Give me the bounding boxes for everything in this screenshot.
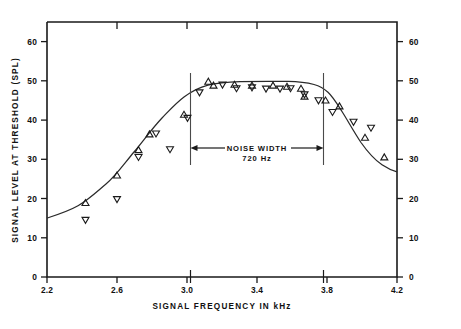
noise-width-label: NOISE WIDTH <box>227 144 288 153</box>
ytick-label-right-50: 50 <box>409 76 419 86</box>
plot-frame <box>47 22 397 277</box>
data-point <box>153 131 160 137</box>
y-axis-left-labels: 0 10 20 30 40 50 60 <box>27 37 37 282</box>
data-point <box>298 85 305 91</box>
ytick-label-left-0: 0 <box>32 272 37 282</box>
data-point <box>114 197 121 203</box>
y-axis-left-ticks <box>41 42 47 277</box>
figure-container: 0 10 20 30 40 50 60 0 10 20 30 40 50 60 <box>0 0 461 329</box>
y-axis-right-ticks <box>397 42 403 277</box>
ytick-label-left-40: 40 <box>27 115 37 125</box>
ytick-label-right-30: 30 <box>409 154 419 164</box>
data-point <box>196 90 203 96</box>
ytick-label-left-50: 50 <box>27 76 37 86</box>
data-point <box>233 86 240 92</box>
data-point <box>263 86 270 92</box>
data-point <box>270 82 277 88</box>
xtick-label-3.4: 3.4 <box>251 285 263 295</box>
y-axis-right-labels: 0 10 20 30 40 50 60 <box>409 37 419 282</box>
xtick-label-3.8: 3.8 <box>321 285 333 295</box>
noise-arrow-head-right <box>317 145 324 151</box>
ytick-label-right-40: 40 <box>409 115 419 125</box>
ytick-label-left-30: 30 <box>27 154 37 164</box>
data-point <box>368 125 375 131</box>
x-axis-labels: 2.2 2.6 3.0 3.4 3.8 4.2 <box>41 285 403 295</box>
noise-arrow-head-left <box>191 145 198 151</box>
data-point <box>82 217 89 223</box>
ytick-label-left-10: 10 <box>27 233 37 243</box>
fitted-response-curve <box>47 81 397 218</box>
data-point <box>381 154 388 160</box>
ytick-label-right-60: 60 <box>409 37 419 47</box>
series-triangle-up-markers <box>82 78 388 205</box>
data-point <box>329 110 336 116</box>
data-point <box>362 134 369 140</box>
data-point <box>205 78 212 84</box>
ytick-label-right-20: 20 <box>409 194 419 204</box>
chart-svg: 0 10 20 30 40 50 60 0 10 20 30 40 50 60 <box>0 0 461 329</box>
xtick-label-4.2: 4.2 <box>391 285 403 295</box>
ytick-label-left-20: 20 <box>27 194 37 204</box>
xtick-label-2.6: 2.6 <box>111 285 123 295</box>
y-axis-title: SIGNAL LEVEL AT THRESHOLD (SPL) <box>11 57 20 243</box>
data-point <box>146 131 153 137</box>
ytick-label-right-0: 0 <box>409 272 414 282</box>
xtick-label-2.2: 2.2 <box>41 285 53 295</box>
noise-width-arrow: NOISE WIDTH 720 Hz <box>191 144 324 163</box>
data-point <box>167 147 174 153</box>
data-point <box>277 86 284 92</box>
data-point <box>350 119 357 125</box>
noise-width-value: 720 Hz <box>242 154 271 163</box>
x-axis-top-ticks <box>117 22 327 29</box>
xtick-label-3.0: 3.0 <box>181 285 193 295</box>
ytick-label-right-10: 10 <box>409 233 419 243</box>
x-axis-title: SIGNAL FREQUENCY IN kHz <box>152 302 291 311</box>
axes-box <box>47 22 397 277</box>
ytick-label-left-60: 60 <box>27 37 37 47</box>
data-point <box>135 155 142 161</box>
data-point <box>315 98 322 104</box>
